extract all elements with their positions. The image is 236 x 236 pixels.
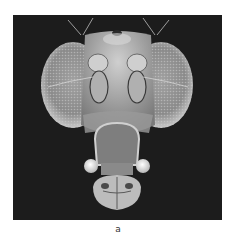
- fly-head-illustration: [13, 15, 222, 220]
- figure-label: a: [0, 224, 236, 234]
- sem-micrograph: [13, 15, 222, 220]
- right-palp: [136, 159, 150, 173]
- right-antenna: [127, 54, 147, 103]
- left-antenna: [88, 54, 108, 103]
- rostrum: [95, 123, 139, 165]
- left-palp: [84, 159, 98, 173]
